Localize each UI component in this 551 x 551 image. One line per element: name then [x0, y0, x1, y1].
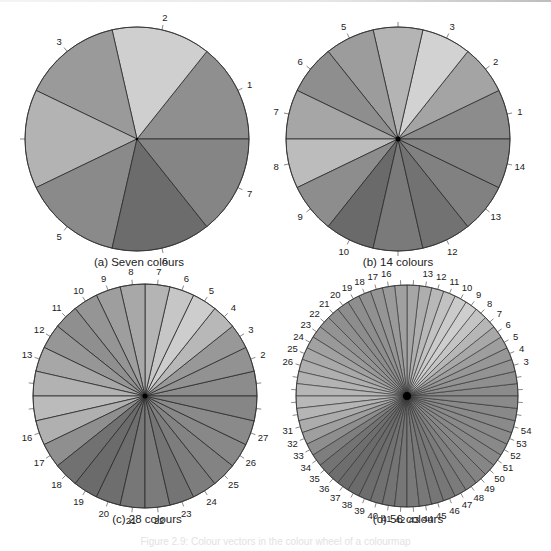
- slice-label: 5: [513, 331, 518, 342]
- label-tick: [293, 415, 298, 416]
- slice-label: 48: [473, 492, 484, 503]
- label-tick: [490, 470, 494, 473]
- label-tick: [449, 289, 451, 294]
- slice-label: 10: [462, 282, 473, 293]
- pie-center-dot: [403, 392, 411, 400]
- label-tick: [426, 505, 427, 510]
- slice-label: 18: [354, 276, 365, 287]
- slice-label: 46: [449, 505, 460, 516]
- slice-label: 33: [293, 450, 304, 461]
- slice-label: 36: [319, 483, 330, 494]
- label-tick: [516, 415, 521, 416]
- label-tick: [296, 364, 301, 365]
- slice-label: 25: [287, 343, 298, 354]
- label-tick: [388, 505, 389, 510]
- label-tick: [340, 487, 343, 491]
- label-tick: [438, 285, 439, 290]
- slice-label: 53: [516, 438, 527, 449]
- pie-svg-d: 3456789101112131617181920212223242526313…: [0, 0, 551, 551]
- label-tick: [375, 285, 376, 290]
- label-tick: [300, 352, 305, 354]
- label-tick: [481, 310, 484, 314]
- label-tick: [305, 340, 309, 342]
- label-tick: [471, 487, 474, 491]
- slice-label: 11: [450, 276, 460, 287]
- slice-label: 8: [487, 298, 492, 309]
- label-tick: [504, 340, 508, 342]
- label-tick: [330, 310, 333, 314]
- slice-label: 3: [524, 356, 529, 367]
- slice-label: 6: [505, 319, 510, 330]
- slice-label: 34: [301, 462, 312, 473]
- label-tick: [481, 479, 484, 483]
- slice-label: 13: [422, 268, 433, 279]
- slice-label: 21: [319, 298, 330, 309]
- caption-a: (a) Seven colours: [94, 256, 184, 268]
- slice-label: 39: [354, 505, 365, 516]
- slice-label: 12: [436, 271, 447, 282]
- label-tick: [312, 460, 316, 463]
- label-tick: [514, 427, 519, 428]
- pie-chart-56-colours: 3456789101112131617181920212223242526313…: [0, 0, 551, 551]
- caption-d: (d) 56 colours: [373, 513, 443, 525]
- slice-label: 16: [381, 268, 392, 279]
- label-tick: [363, 499, 365, 504]
- label-tick: [300, 438, 305, 440]
- slice-label: 52: [510, 450, 521, 461]
- slice-label: 50: [494, 473, 505, 484]
- label-tick: [296, 427, 301, 428]
- slice-label: 54: [521, 425, 532, 436]
- caption-c: (c) 28 colours: [112, 513, 182, 525]
- figure-caption: Figure 2.9: Colour vectors in the colour…: [140, 536, 410, 547]
- label-tick: [426, 282, 427, 287]
- label-tick: [461, 493, 463, 497]
- label-tick: [498, 460, 502, 463]
- label-tick: [351, 294, 353, 298]
- slice-label: 24: [293, 331, 304, 342]
- label-tick: [504, 450, 508, 452]
- label-tick: [490, 319, 494, 322]
- caption-b: (b) 14 colours: [363, 256, 433, 268]
- label-tick: [514, 364, 519, 365]
- label-tick: [293, 377, 298, 378]
- label-tick: [330, 479, 333, 483]
- slice-label: 26: [283, 356, 294, 367]
- label-tick: [510, 438, 515, 440]
- slice-label: 9: [476, 289, 481, 300]
- label-tick: [305, 450, 309, 452]
- slice-label: 51: [503, 462, 514, 473]
- label-tick: [510, 352, 515, 354]
- slice-label: 22: [309, 308, 320, 319]
- label-tick: [321, 470, 325, 473]
- label-tick: [351, 493, 353, 497]
- label-tick: [438, 503, 439, 508]
- label-tick: [375, 503, 376, 508]
- slice-label: 47: [462, 499, 473, 510]
- slice-label: 49: [484, 483, 495, 494]
- label-tick: [471, 301, 474, 305]
- label-tick: [388, 282, 389, 287]
- slice-label: 7: [497, 308, 502, 319]
- slice-label: 23: [301, 319, 312, 330]
- label-tick: [363, 289, 365, 294]
- label-tick: [498, 329, 502, 332]
- label-tick: [321, 319, 325, 322]
- slice-label: 38: [342, 499, 353, 510]
- label-tick: [449, 499, 451, 504]
- label-tick: [340, 301, 343, 305]
- slice-label: 19: [342, 282, 353, 293]
- slice-label: 17: [367, 271, 378, 282]
- label-tick: [461, 294, 463, 298]
- slice-label: 20: [330, 289, 341, 300]
- slice-label: 31: [283, 425, 294, 436]
- label-tick: [312, 329, 316, 332]
- label-tick: [516, 377, 521, 378]
- slice-label: 32: [287, 438, 298, 449]
- slice-label: 4: [519, 343, 524, 354]
- slice-label: 37: [330, 492, 341, 503]
